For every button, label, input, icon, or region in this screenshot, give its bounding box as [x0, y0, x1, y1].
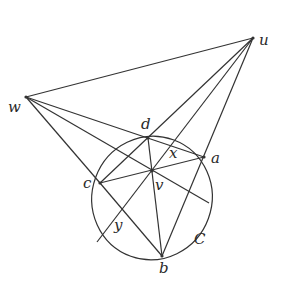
label-u: u — [259, 33, 269, 48]
point-u-marker — [251, 36, 254, 39]
conic-label: C — [194, 232, 205, 247]
segment-d-b — [148, 138, 162, 256]
label-v: v — [155, 178, 163, 193]
label-x: x — [169, 146, 177, 161]
point-b-marker — [160, 254, 163, 257]
segment-u-w — [26, 38, 253, 97]
point-a-marker — [202, 155, 205, 158]
point-d-marker — [146, 136, 149, 139]
label-d: d — [141, 117, 151, 132]
point-c-marker — [98, 181, 101, 184]
label-y: y — [114, 218, 122, 233]
diagram-canvas — [0, 0, 289, 306]
line-segments — [26, 38, 253, 256]
point-w-marker — [24, 95, 27, 98]
projective-diagram: uwdacvxyb C — [0, 0, 289, 306]
conic-C — [74, 119, 229, 277]
segment-c-b — [100, 183, 162, 256]
label-w: w — [8, 100, 21, 115]
label-b: b — [159, 261, 169, 276]
label-c: c — [83, 176, 91, 191]
label-a: a — [211, 151, 220, 166]
point-v-marker — [150, 169, 153, 172]
